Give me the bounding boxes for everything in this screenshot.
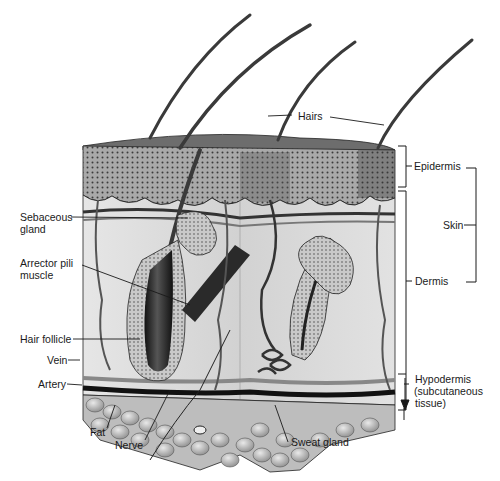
label-fat: Fat bbox=[90, 426, 105, 438]
label-arrector-1: Arrector pili bbox=[20, 257, 73, 269]
skin-diagram: Hairs Epidermis Skin Dermis Hypodermis (… bbox=[0, 0, 500, 481]
label-epidermis: Epidermis bbox=[414, 160, 461, 172]
label-skin: Skin bbox=[443, 219, 463, 231]
label-artery: Artery bbox=[38, 378, 66, 390]
label-arrector-2: muscle bbox=[20, 269, 53, 281]
label-nerve: Nerve bbox=[115, 439, 143, 451]
label-hypodermis-1: Hypodermis bbox=[415, 373, 471, 385]
epidermis-layer bbox=[83, 146, 395, 206]
label-sebaceous-2: gland bbox=[20, 223, 46, 235]
label-sweat-gland: Sweat gland bbox=[291, 436, 349, 448]
label-hypodermis-3: tissue) bbox=[415, 397, 446, 409]
label-vein: Vein bbox=[47, 354, 67, 366]
label-sebaceous-1: Sebaceous bbox=[20, 211, 73, 223]
label-hypodermis-2: (subcutaneous bbox=[414, 385, 483, 397]
label-dermis: Dermis bbox=[415, 275, 448, 287]
label-hair-follicle: Hair follicle bbox=[20, 333, 71, 345]
label-hairs: Hairs bbox=[298, 110, 323, 122]
